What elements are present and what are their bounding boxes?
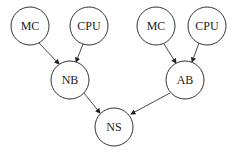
node-ab: AB <box>166 61 204 99</box>
node-mc1-label: MC <box>21 19 40 33</box>
node-cpu1: CPU <box>70 7 108 45</box>
node-mc1: MC <box>11 7 49 45</box>
node-ns-label: NS <box>106 120 121 134</box>
node-nb-label: NB <box>62 73 79 87</box>
node-ns: NS <box>95 108 133 146</box>
edge-cpu1-nb <box>76 44 83 62</box>
node-cpu2: CPU <box>188 7 226 45</box>
node-ab-label: AB <box>177 73 194 87</box>
edge-cpu2-ab <box>192 43 199 62</box>
node-cpu1-label: CPU <box>77 19 101 33</box>
edge-nb-ns <box>84 93 100 113</box>
diagram-canvas: MC CPU NB MC CPU AB NS <box>0 0 228 154</box>
edge-mc2-ab <box>164 44 176 63</box>
edge-ab-ns <box>131 93 170 114</box>
node-mc2-label: MC <box>147 19 166 33</box>
edge-mc1-nb <box>39 43 59 64</box>
nodes: MC CPU NB MC CPU AB NS <box>11 7 226 146</box>
node-mc2: MC <box>137 7 175 45</box>
node-nb: NB <box>51 61 89 99</box>
node-cpu2-label: CPU <box>195 19 219 33</box>
